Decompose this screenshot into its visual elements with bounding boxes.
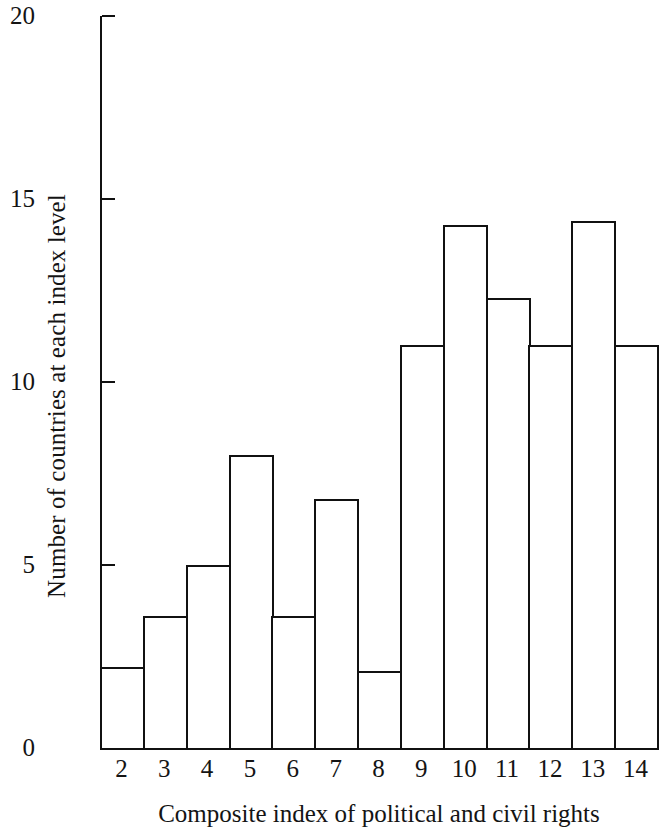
x-tick-label: 13 bbox=[571, 756, 614, 781]
y-axis-title: Number of countries at each index level bbox=[43, 161, 71, 631]
bar bbox=[271, 616, 316, 750]
x-tick-label: 12 bbox=[528, 756, 571, 781]
bar bbox=[614, 345, 659, 750]
y-tick-label: 15 bbox=[0, 186, 35, 211]
y-tick-mark bbox=[102, 381, 115, 383]
x-tick-label: 7 bbox=[314, 756, 357, 781]
bar bbox=[229, 455, 274, 750]
x-tick-label: 9 bbox=[400, 756, 443, 781]
y-tick-label: 0 bbox=[0, 735, 35, 760]
bar bbox=[186, 565, 231, 750]
bar bbox=[143, 616, 188, 750]
y-tick-mark bbox=[102, 198, 115, 200]
x-tick-label: 2 bbox=[100, 756, 143, 781]
y-tick-label: 10 bbox=[0, 369, 35, 394]
bar bbox=[100, 667, 145, 750]
bar bbox=[357, 671, 402, 750]
y-tick-mark bbox=[102, 564, 115, 566]
plot-area: 20151050 234567891011121314 bbox=[100, 16, 657, 748]
x-tick-label: 10 bbox=[443, 756, 486, 781]
y-tick-label: 5 bbox=[0, 552, 35, 577]
bar bbox=[528, 345, 573, 750]
y-axis-line bbox=[100, 16, 102, 750]
x-tick-label: 8 bbox=[357, 756, 400, 781]
y-tick-label: 20 bbox=[0, 3, 35, 28]
x-tick-label: 14 bbox=[614, 756, 657, 781]
x-tick-label: 4 bbox=[186, 756, 229, 781]
bar bbox=[571, 221, 616, 750]
x-tick-label: 3 bbox=[143, 756, 186, 781]
bar bbox=[443, 225, 488, 750]
x-tick-label: 5 bbox=[229, 756, 272, 781]
bar bbox=[400, 345, 445, 750]
bar bbox=[486, 298, 531, 750]
x-tick-label: 6 bbox=[271, 756, 314, 781]
y-tick-mark bbox=[102, 15, 115, 17]
x-tick-label: 11 bbox=[486, 756, 529, 781]
x-axis-title: Composite index of political and civil r… bbox=[100, 800, 658, 828]
bar bbox=[314, 499, 359, 750]
